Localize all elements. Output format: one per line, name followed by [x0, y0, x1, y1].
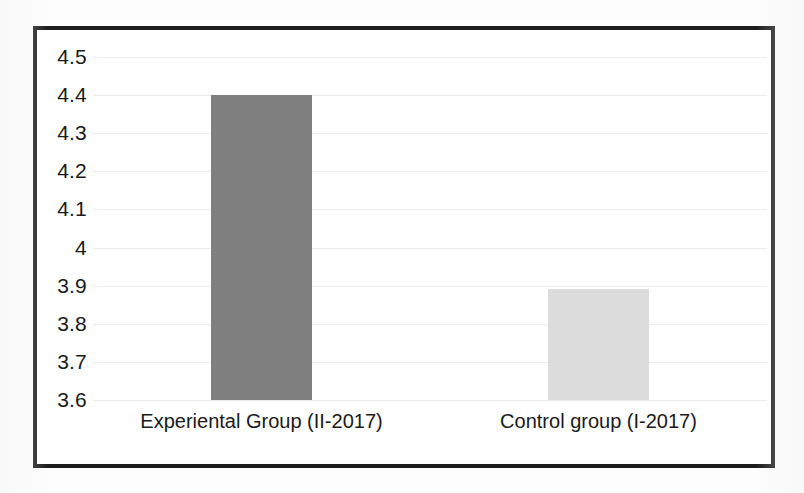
- gridline: [93, 209, 767, 210]
- x-axis-category-label: Experiental Group (II-2017): [140, 410, 382, 433]
- scanned-page: 4.54.44.34.24.143.93.83.73.6 Experiental…: [0, 0, 804, 493]
- gridline: [93, 286, 767, 287]
- y-axis-tick-label: 4.3: [57, 121, 87, 145]
- y-axis-tick-label: 4: [75, 236, 87, 260]
- gridline: [93, 400, 767, 401]
- y-axis-tick-label: 4.2: [57, 159, 87, 183]
- y-axis-tick-label: 3.7: [57, 350, 87, 374]
- gridline: [93, 171, 767, 172]
- y-axis-tick-label: 3.9: [57, 274, 87, 298]
- chart-plot-wrapper: 4.54.44.34.24.143.93.83.73.6 Experiental…: [37, 30, 771, 464]
- y-axis-tick-label: 4.5: [57, 45, 87, 69]
- gridline: [93, 133, 767, 134]
- y-axis: 4.54.44.34.24.143.93.83.73.6: [37, 30, 93, 464]
- y-axis-tick-label: 4.1: [57, 197, 87, 221]
- x-axis-category-label: Control group (I-2017): [500, 410, 697, 433]
- gridline: [93, 248, 767, 249]
- y-axis-tick-label: 4.4: [57, 83, 87, 107]
- chart-figure-frame: 4.54.44.34.24.143.93.83.73.6 Experiental…: [33, 26, 775, 468]
- bar: [211, 95, 312, 400]
- plot-area: [93, 57, 767, 400]
- x-axis: Experiental Group (II-2017)Control group…: [93, 410, 767, 450]
- y-axis-tick-label: 3.8: [57, 312, 87, 336]
- y-axis-tick-label: 3.6: [57, 388, 87, 412]
- gridline: [93, 362, 767, 363]
- bar: [548, 289, 649, 400]
- gridline: [93, 95, 767, 96]
- gridline: [93, 57, 767, 58]
- gridline: [93, 324, 767, 325]
